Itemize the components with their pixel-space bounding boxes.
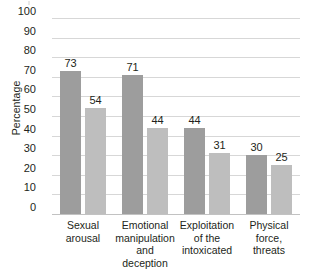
y-tick-label-10: 10: [10, 182, 36, 193]
y-tick-label-40: 40: [10, 124, 36, 135]
bar-4-2: [271, 165, 292, 214]
y-tick-label-0: 0: [10, 202, 36, 213]
category-label-line: threats: [231, 244, 307, 257]
gridline-90: [52, 38, 300, 39]
y-tick-label-80: 80: [10, 45, 36, 56]
bar-3-2: [209, 153, 230, 214]
bar-value-3-1: 44: [177, 115, 212, 126]
gridline-100: [52, 18, 300, 19]
bar-chart: Percentage 0102030405060708090100 735471…: [0, 0, 312, 279]
bar-1-2: [85, 108, 106, 214]
y-tick-label-100: 100: [10, 6, 36, 17]
bar-4-1: [246, 155, 267, 214]
y-tick-label-50: 50: [10, 104, 36, 115]
category-label-line: Physical: [231, 219, 307, 232]
category-label-line: deception: [107, 257, 183, 270]
bar-2-2: [147, 128, 168, 214]
gridline-80: [52, 57, 300, 58]
bar-value-2-1: 71: [115, 62, 150, 73]
gridline-70: [52, 77, 300, 78]
category-label-line: force,: [231, 232, 307, 245]
y-tick-label-20: 20: [10, 163, 36, 174]
bar-value-1-2: 54: [78, 95, 113, 106]
bar-value-2-2: 44: [140, 115, 175, 126]
y-tick-label-60: 60: [10, 84, 36, 95]
bar-value-3-2: 31: [202, 140, 237, 151]
y-tick-label-70: 70: [10, 65, 36, 76]
y-tick-label-90: 90: [10, 26, 36, 37]
bar-value-4-2: 25: [264, 152, 299, 163]
y-tick-label-30: 30: [10, 143, 36, 154]
gridline-0: [52, 214, 300, 215]
category-label-4: Physicalforce,threats: [231, 219, 307, 257]
bar-value-1-1: 73: [53, 58, 88, 69]
plot-area: 0102030405060708090100 7354714444313025: [52, 18, 300, 214]
bar-1-1: [60, 71, 81, 214]
bar-2-1: [122, 75, 143, 214]
